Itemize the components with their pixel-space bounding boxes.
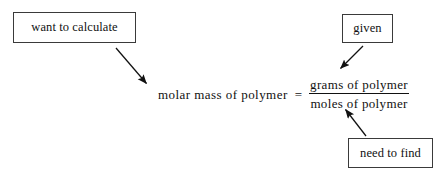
equation: molar mass of polymer = grams of polymer… <box>158 78 409 110</box>
box-want-to-calculate-label: want to calculate <box>31 21 117 34</box>
arrow-need-to-find <box>346 110 367 137</box>
fraction-denominator: moles of polymer <box>309 94 408 110</box>
arrow-given <box>341 46 364 69</box>
diagram-canvas: want to calculate given need to find mol… <box>0 0 446 175</box>
box-need-to-find-label: need to find <box>360 147 421 160</box>
fraction: grams of polymer moles of polymer <box>309 78 409 110</box>
box-given-label: given <box>353 22 381 35</box>
arrow-want-to-calculate <box>116 48 147 84</box>
box-given: given <box>342 14 393 43</box>
box-need-to-find: need to find <box>348 138 433 168</box>
equation-left-side: molar mass of polymer <box>158 88 288 101</box>
equals-sign: = <box>295 88 302 101</box>
fraction-numerator: grams of polymer <box>309 78 409 93</box>
box-want-to-calculate: want to calculate <box>13 12 136 43</box>
